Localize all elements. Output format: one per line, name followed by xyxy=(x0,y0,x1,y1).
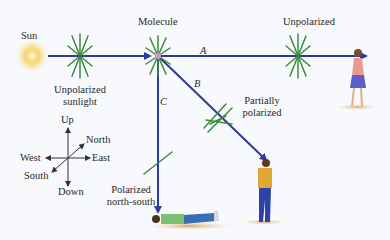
unpolarized-sunlight-label: Unpolarized sunlight xyxy=(50,84,110,108)
sun-label: Sun xyxy=(21,30,37,42)
partial-field-icon xyxy=(204,104,232,132)
molecule-label: Molecule xyxy=(138,16,178,28)
standing-man-icon xyxy=(242,159,286,225)
sun-icon xyxy=(16,40,48,72)
compass-north-label: North xyxy=(86,134,111,146)
unpolarized-label: Unpolarized xyxy=(283,16,335,28)
ray-c-label: C xyxy=(160,96,167,108)
diagram-canvas xyxy=(0,0,390,240)
compass-west-label: West xyxy=(20,152,41,164)
partially-polarized-label: Partially polarized xyxy=(236,95,288,119)
compass-up-label: Up xyxy=(61,114,74,126)
lying-man-icon xyxy=(146,211,234,230)
compass-east-label: East xyxy=(92,152,110,164)
ray-a-label: A xyxy=(200,45,206,57)
polarized-north-south-label: Polarized north-south xyxy=(100,184,162,208)
molecule-icon xyxy=(155,53,161,59)
compass-icon xyxy=(46,128,90,186)
ray-b-label: B xyxy=(194,78,200,90)
compass-south-label: South xyxy=(24,170,49,182)
compass-down-label: Down xyxy=(58,186,84,198)
woman-figure-icon xyxy=(337,49,377,110)
